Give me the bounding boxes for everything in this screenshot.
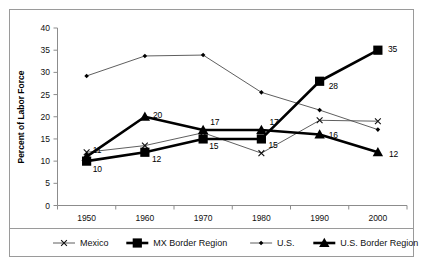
marker-square bbox=[140, 148, 149, 157]
data-point-label: 15 bbox=[209, 141, 219, 151]
marker-square bbox=[199, 134, 208, 143]
y-tick-label: 10 bbox=[41, 156, 51, 166]
data-point-label: 15 bbox=[268, 140, 278, 150]
chart-background bbox=[0, 0, 423, 266]
y-axis-title: Percent of Labor Force bbox=[16, 70, 26, 163]
legend-label: MX Border Region bbox=[153, 238, 227, 248]
data-point-label: 12 bbox=[389, 149, 399, 159]
legend-item-mx-border-region[interactable]: MX Border Region bbox=[126, 238, 227, 248]
x-tick-label: 2000 bbox=[368, 213, 387, 223]
y-tick-label: 0 bbox=[45, 201, 50, 211]
y-tick-label: 15 bbox=[41, 134, 51, 144]
data-point-label: 17 bbox=[210, 117, 220, 127]
legend-label: Mexico bbox=[80, 238, 109, 248]
marker-square bbox=[257, 134, 266, 143]
chart-canvas: 0510152025303540 19501960197019801990200… bbox=[0, 0, 423, 266]
legend-label: U.S. Border Region bbox=[340, 238, 418, 248]
legend-label: U.S. bbox=[277, 238, 295, 248]
x-tick-label: 1970 bbox=[194, 213, 213, 223]
y-tick-label: 30 bbox=[41, 67, 51, 77]
x-tick-label: 1960 bbox=[135, 213, 154, 223]
data-point-label: 20 bbox=[153, 110, 163, 120]
y-tick-label: 20 bbox=[41, 112, 51, 122]
chart-figure: 0510152025303540 19501960197019801990200… bbox=[0, 0, 423, 266]
data-point-label: 12 bbox=[152, 154, 162, 164]
marker-square bbox=[133, 238, 142, 247]
x-tick-label: 1990 bbox=[310, 213, 329, 223]
data-point-label: 17 bbox=[269, 117, 279, 127]
x-tick-label: 1980 bbox=[252, 213, 271, 223]
data-point-label: 35 bbox=[388, 44, 398, 54]
y-tick-label: 5 bbox=[45, 178, 50, 188]
data-point-label: 28 bbox=[329, 81, 339, 91]
y-tick-label: 25 bbox=[41, 90, 51, 100]
data-point-label: 11 bbox=[93, 145, 102, 155]
x-tick-label: 1950 bbox=[77, 213, 96, 223]
data-point-label: 16 bbox=[329, 130, 339, 140]
marker-square bbox=[373, 46, 382, 55]
y-tick-label: 35 bbox=[41, 45, 51, 55]
y-tick-label: 40 bbox=[41, 23, 51, 33]
data-point-label: 10 bbox=[93, 164, 103, 174]
marker-square bbox=[315, 77, 324, 86]
